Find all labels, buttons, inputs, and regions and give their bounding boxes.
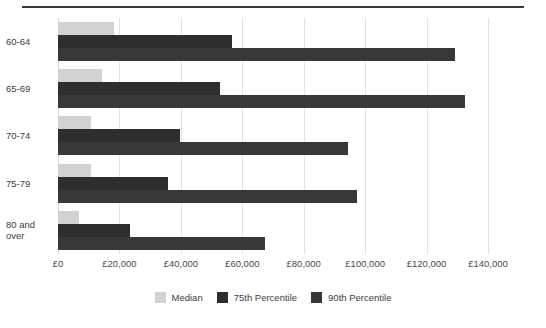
x-tick-label-60000: £60,000 (225, 258, 259, 269)
y-axis-category-labels: 60-64 65-69 70-74 75-79 80 and over (0, 18, 56, 254)
bar-median (58, 116, 91, 129)
y-axis-label-3: 75-79 (0, 160, 50, 207)
plot-area (58, 18, 488, 254)
bar-median (58, 22, 114, 35)
bar-p75 (58, 82, 220, 95)
legend-swatch-icon (217, 292, 228, 303)
bar-p90 (58, 190, 357, 203)
legend-item-median[interactable]: Median (155, 292, 203, 303)
legend-item-p90[interactable]: 90th Percentile (311, 292, 391, 303)
legend-label: 90th Percentile (328, 292, 391, 303)
x-tick-label-120000: £120,000 (407, 258, 447, 269)
bar-group-bars (58, 115, 488, 156)
bar-group-60-64 (58, 18, 488, 65)
bar-p75 (58, 224, 130, 237)
x-tick-label-80000: £80,000 (287, 258, 321, 269)
bar-p90 (58, 95, 465, 108)
bar-p90 (58, 237, 265, 250)
y-axis-label-1: 65-69 (0, 65, 50, 112)
gridline-140000 (488, 18, 489, 254)
bar-p90 (58, 142, 348, 155)
x-tick-label-20000: £20,000 (102, 258, 136, 269)
bar-median (58, 69, 102, 82)
legend-label: 75th Percentile (234, 292, 297, 303)
bar-group-65-69 (58, 65, 488, 112)
y-axis-label-2: 70-74 (0, 112, 50, 159)
y-axis-label-0: 60-64 (0, 18, 50, 65)
legend-label: Median (172, 292, 203, 303)
y-axis-label-4: 80 and over (0, 207, 50, 254)
bar-group-80-and-over (58, 207, 488, 254)
bar-p75 (58, 177, 168, 190)
bar-rows (58, 18, 488, 254)
bar-group-70-74 (58, 112, 488, 159)
legend-item-p75[interactable]: 75th Percentile (217, 292, 297, 303)
bar-group-bars (58, 210, 488, 251)
bar-p75 (58, 129, 180, 142)
bar-group-75-79 (58, 160, 488, 207)
x-tick-label-40000: £40,000 (164, 258, 198, 269)
bar-group-bars (58, 163, 488, 204)
bar-median (58, 164, 91, 177)
bar-group-bars (58, 21, 488, 62)
x-tick-label-0: £0 (53, 258, 64, 269)
x-tick-label-140000: £140,000 (468, 258, 508, 269)
legend-swatch-icon (311, 292, 322, 303)
bar-chart: 60-64 65-69 70-74 75-79 80 and over £0£2… (0, 0, 546, 328)
legend-swatch-icon (155, 292, 166, 303)
chart-legend: Median75th Percentile90th Percentile (0, 292, 546, 303)
bar-p90 (58, 48, 455, 61)
top-divider-rule (22, 6, 524, 8)
bar-p75 (58, 35, 232, 48)
bar-group-bars (58, 68, 488, 109)
x-axis-tick-labels: £0£20,000£40,000£60,000£80,000£100,000£1… (0, 258, 546, 276)
bar-median (58, 211, 79, 224)
x-tick-label-100000: £100,000 (345, 258, 385, 269)
